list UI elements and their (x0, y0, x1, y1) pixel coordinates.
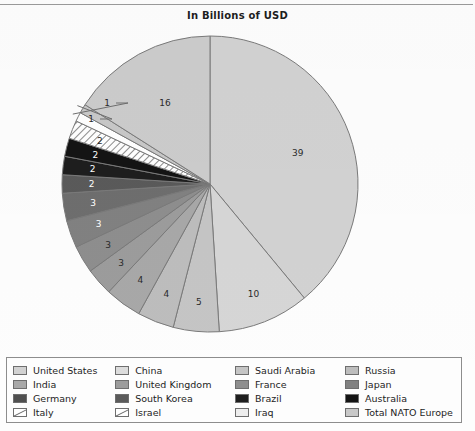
legend: United States India Germany Italy (6, 357, 462, 423)
legend-label-brazil: Brazil (255, 393, 282, 404)
legend-item-saudi-arabia[interactable]: Saudi Arabia (235, 363, 345, 377)
legend-item-israel[interactable]: Israel (115, 405, 235, 419)
legend-item-italy[interactable]: Italy (13, 405, 115, 419)
legend-column-1: United States India Germany Italy (13, 363, 115, 422)
legend-item-united-states[interactable]: United States (13, 363, 115, 377)
legend-column-2: China United Kingdom South Korea Israel (115, 363, 235, 422)
pie-value-brazil: 2 (90, 164, 96, 174)
legend-item-france[interactable]: France (235, 377, 345, 391)
legend-swatch-china (115, 366, 129, 375)
legend-item-germany[interactable]: Germany (13, 391, 115, 405)
pie-value-total-nato-europe: 16 (159, 98, 171, 108)
legend-label-iraq: Iraq (255, 407, 274, 418)
legend-item-russia[interactable]: Russia (345, 363, 461, 377)
pie-chart: 39105443333222216 11 (42, 22, 382, 342)
pie-value-italy: 1 (104, 98, 110, 108)
legend-label-france: France (255, 379, 287, 390)
legend-swatch-united-kingdom (115, 380, 129, 389)
legend-label-india: India (33, 379, 56, 390)
legend-swatch-saudi-arabia (235, 366, 249, 375)
pie-value-israel: 2 (97, 136, 103, 146)
legend-label-united-kingdom: United Kingdom (135, 379, 211, 390)
legend-label-germany: Germany (33, 393, 77, 404)
pie-value-australia: 2 (92, 150, 98, 160)
legend-label-italy: Italy (33, 407, 54, 418)
pie-value-germany: 3 (90, 198, 96, 208)
legend-swatch-russia (345, 366, 359, 375)
pie-value-india: 4 (138, 275, 144, 285)
legend-item-japan[interactable]: Japan (345, 377, 461, 391)
pie-value-south-korea: 2 (89, 179, 95, 189)
pie-value-united-states: 39 (292, 148, 304, 158)
legend-item-iraq[interactable]: Iraq (235, 405, 345, 419)
chart-title: In Billions of USD (0, 10, 475, 21)
legend-item-total-nato-europe[interactable]: Total NATO Europe (345, 405, 461, 419)
legend-item-australia[interactable]: Australia (345, 391, 461, 405)
legend-label-south-korea: South Korea (135, 393, 193, 404)
page-canvas: In Billions of USD 39105443333222216 11 … (0, 0, 475, 431)
legend-swatch-france (235, 380, 249, 389)
legend-label-israel: Israel (135, 407, 161, 418)
pie-slices (62, 36, 358, 332)
legend-swatch-iraq (235, 408, 249, 417)
legend-swatch-south-korea (115, 394, 129, 403)
pie-value-russia: 4 (164, 289, 170, 299)
pie-value-china: 10 (248, 289, 260, 299)
legend-swatch-australia (345, 394, 359, 403)
legend-swatch-israel (115, 408, 129, 417)
legend-item-india[interactable]: India (13, 377, 115, 391)
legend-swatch-total-nato-europe (345, 408, 359, 417)
legend-item-china[interactable]: China (115, 363, 235, 377)
pie-value-iraq: 1 (88, 114, 94, 124)
legend-swatch-united-states (13, 366, 27, 375)
legend-label-russia: Russia (365, 365, 396, 376)
legend-column-4: Russia Japan Australia Total NATO Europe (345, 363, 461, 422)
legend-swatch-italy (13, 408, 27, 417)
legend-swatch-hatch (13, 408, 27, 417)
legend-label-japan: Japan (365, 379, 392, 390)
pie-value-japan: 3 (96, 219, 102, 229)
pie-value-france: 3 (105, 240, 111, 250)
legend-label-australia: Australia (365, 393, 407, 404)
legend-swatch-brazil (235, 394, 249, 403)
pie-chart-svg: 39105443333222216 11 (42, 22, 382, 342)
legend-swatch-japan (345, 380, 359, 389)
legend-item-brazil[interactable]: Brazil (235, 391, 345, 405)
page-top-rule (0, 4, 473, 5)
legend-item-united-kingdom[interactable]: United Kingdom (115, 377, 235, 391)
pie-value-united-kingdom: 3 (118, 258, 124, 268)
legend-swatch-hatch (115, 408, 129, 417)
pie-value-saudi-arabia: 5 (196, 297, 202, 307)
legend-swatch-india (13, 380, 27, 389)
legend-label-saudi-arabia: Saudi Arabia (255, 365, 315, 376)
legend-label-china: China (135, 365, 162, 376)
legend-item-south-korea[interactable]: South Korea (115, 391, 235, 405)
legend-label-united-states: United States (33, 365, 97, 376)
legend-label-total-nato-europe: Total NATO Europe (365, 407, 453, 418)
legend-column-3: Saudi Arabia France Brazil Iraq (235, 363, 345, 422)
legend-swatch-germany (13, 394, 27, 403)
